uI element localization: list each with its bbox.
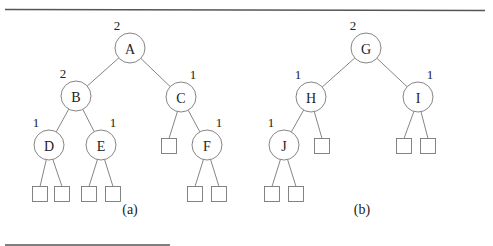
node-label-B: B <box>71 90 80 105</box>
tree-a: A2B2C1D1E1F1 <box>33 18 227 202</box>
node-label-J: J <box>281 139 287 154</box>
caption-a: (a) <box>122 202 138 218</box>
node-label-I: I <box>416 91 421 106</box>
rank-label-G: 2 <box>350 18 357 33</box>
external-leaf <box>265 187 280 202</box>
edge-F-leaf-right <box>211 160 219 187</box>
rank-label-A: 2 <box>114 18 121 33</box>
node-label-D: D <box>44 139 54 154</box>
external-leaf <box>33 187 48 202</box>
edge-G-H <box>322 58 355 87</box>
external-leaf <box>212 187 227 202</box>
external-leaf <box>82 187 97 202</box>
edge-F-leaf-left <box>195 160 203 187</box>
edge-I-leaf-right <box>421 112 428 139</box>
edge-D-leaf-right <box>53 159 62 186</box>
node-label-A: A <box>125 42 136 57</box>
edge-D-leaf-left <box>40 160 46 187</box>
edge-C-F <box>188 110 200 132</box>
rank-label-F: 1 <box>216 115 223 130</box>
edge-H-leaf-right <box>314 112 322 139</box>
external-leaf <box>315 139 330 154</box>
node-label-G: G <box>361 42 371 57</box>
rank-label-J: 1 <box>268 115 275 130</box>
rank-label-B: 2 <box>60 66 67 81</box>
node-label-C: C <box>176 91 185 106</box>
external-leaf <box>289 187 304 202</box>
caption-b: (b) <box>354 202 371 218</box>
rank-label-D: 1 <box>33 115 40 130</box>
edge-H-J <box>291 110 303 132</box>
edge-A-B <box>87 58 119 86</box>
edge-J-leaf-left <box>272 160 280 187</box>
external-leaf <box>55 187 70 202</box>
node-label-E: E <box>97 139 106 154</box>
tree-b: G2H1I1J1 <box>265 18 436 202</box>
edge-I-leaf-left <box>404 111 414 138</box>
edge-E-leaf-left <box>89 160 97 187</box>
edge-C-leaf-left <box>169 112 177 139</box>
node-label-H: H <box>306 91 316 106</box>
edge-J-leaf-right <box>288 160 296 187</box>
rank-label-C: 1 <box>190 67 197 82</box>
rank-label-H: 1 <box>295 67 302 82</box>
edge-A-C <box>141 58 170 86</box>
external-leaf <box>162 139 177 154</box>
node-label-F: F <box>203 139 211 154</box>
external-leaf <box>106 187 121 202</box>
edge-B-E <box>83 109 94 131</box>
external-leaf <box>188 187 203 202</box>
figure-canvas: A2B2C1D1E1F1 G2H1I1J1 (a) (b) <box>0 0 493 246</box>
rank-label-E: 1 <box>110 115 117 130</box>
edge-G-I <box>377 58 407 86</box>
external-leaf <box>421 139 436 154</box>
rank-label-I: 1 <box>427 67 434 82</box>
edge-E-leaf-right <box>105 160 113 187</box>
external-leaf <box>397 139 412 154</box>
top-rule <box>5 10 485 11</box>
edge-B-D <box>56 109 69 132</box>
